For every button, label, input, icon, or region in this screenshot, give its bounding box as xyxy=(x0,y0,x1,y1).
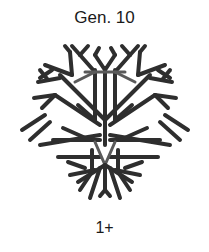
tree-upper-canopy xyxy=(34,46,176,145)
branching-tree-figure xyxy=(0,0,209,252)
figure-label: 1+ xyxy=(0,218,209,238)
